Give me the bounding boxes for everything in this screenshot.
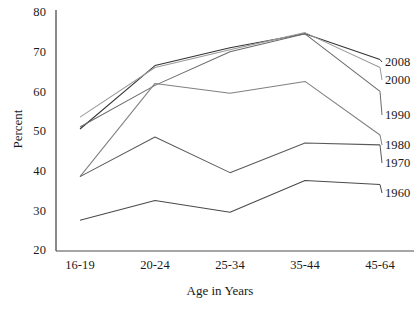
leader-line-2000 xyxy=(380,68,382,80)
legend-leader-lines xyxy=(380,60,382,193)
y-tick-70: 70 xyxy=(16,45,46,60)
series-label-1990: 1990 xyxy=(385,108,410,123)
leader-line-1960 xyxy=(380,185,382,193)
series-label-1970: 1970 xyxy=(385,156,410,171)
series-line-2008 xyxy=(80,34,380,129)
series-label-2008: 2008 xyxy=(385,55,410,70)
y-tick-30: 30 xyxy=(16,204,46,219)
x-tick-25-34: 25-34 xyxy=(200,258,260,273)
x-tick-35-44: 35-44 xyxy=(275,258,335,273)
x-tick-20-24: 20-24 xyxy=(125,258,185,273)
leader-line-2008 xyxy=(380,60,382,62)
series-line-1970 xyxy=(80,137,380,177)
x-tick-45-64: 45-64 xyxy=(350,258,410,273)
series-label-1980: 1980 xyxy=(385,138,410,153)
leader-line-1980 xyxy=(380,135,382,145)
leader-line-1990 xyxy=(380,91,382,115)
y-tick-40: 40 xyxy=(16,164,46,179)
y-tick-80: 80 xyxy=(16,5,46,20)
y-tick-20: 20 xyxy=(16,243,46,258)
leader-line-1970 xyxy=(380,145,382,163)
series-line-1980 xyxy=(80,81,380,176)
y-axis-title: Percent xyxy=(10,94,26,164)
series-lines xyxy=(80,33,380,221)
x-axis-title: Age in Years xyxy=(120,283,320,299)
series-line-1960 xyxy=(80,181,380,221)
line-chart: 80 70 60 50 40 30 20 16-19 20-24 25-34 3… xyxy=(0,0,418,313)
series-label-1960: 1960 xyxy=(385,186,410,201)
x-tick-16-19: 16-19 xyxy=(50,258,110,273)
series-line-2000 xyxy=(80,33,380,117)
series-label-2000: 2000 xyxy=(385,73,410,88)
